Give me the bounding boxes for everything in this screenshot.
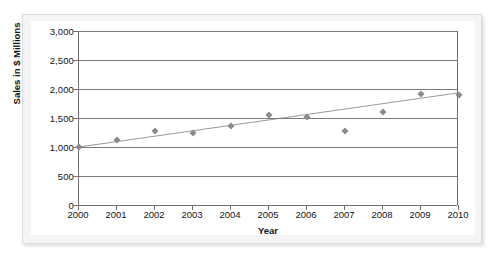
x-tick-label: 2004 <box>219 209 240 220</box>
x-axis-label: Year <box>78 225 458 236</box>
x-tick-label: 2001 <box>105 209 126 220</box>
gridline <box>79 89 457 90</box>
y-axis-label: Sales in $ Millions <box>11 4 22 124</box>
plot-area <box>78 31 458 205</box>
y-tick-label: 500 <box>58 171 74 182</box>
y-tick-label: 1,000 <box>50 142 74 153</box>
x-axis-tick-labels: 2000200120022003200420052006200720082009… <box>78 209 458 225</box>
x-tick-label: 2002 <box>143 209 164 220</box>
chart-figure: Sales in $ Millions 05001,0001,5002,0002… <box>0 0 502 259</box>
x-tick-label: 2000 <box>67 209 88 220</box>
x-tick-label: 2009 <box>409 209 430 220</box>
gridline <box>79 60 457 61</box>
y-tick-label: 2,500 <box>50 55 74 66</box>
y-tick-label: 3,000 <box>50 26 74 37</box>
x-tick-label: 2006 <box>295 209 316 220</box>
y-axis-tick-labels: 05001,0001,5002,0002,5003,000 <box>34 31 74 205</box>
gridline <box>79 147 457 148</box>
y-tick-label: 1,500 <box>50 113 74 124</box>
x-tick-label: 2010 <box>447 209 468 220</box>
gridline <box>79 176 457 177</box>
x-tick-label: 2003 <box>181 209 202 220</box>
gridline <box>79 31 457 32</box>
x-tick-label: 2005 <box>257 209 278 220</box>
x-tick-label: 2007 <box>333 209 354 220</box>
x-tick-label: 2008 <box>371 209 392 220</box>
y-tick-label: 2,000 <box>50 84 74 95</box>
